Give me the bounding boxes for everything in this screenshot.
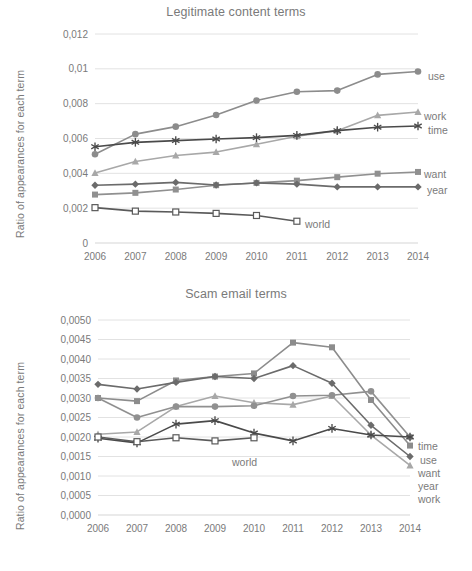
data-point-year: [172, 179, 179, 186]
x-tick-label: 2010: [243, 523, 266, 534]
series-label-work: work: [417, 493, 441, 505]
x-tick-label: 2006: [84, 251, 107, 262]
data-point-want: [134, 414, 141, 421]
x-tick-label: 2012: [321, 523, 344, 534]
data-point-want: [173, 187, 179, 193]
data-point-use: [172, 123, 179, 130]
y-tick-label: 0,0015: [60, 451, 91, 462]
data-point-want: [290, 393, 297, 400]
series-label-world: world: [304, 218, 330, 230]
series-label-work: work: [423, 110, 447, 122]
data-point-use: [407, 443, 413, 449]
data-point-world: [132, 208, 138, 214]
data-point-world: [173, 209, 179, 215]
y-tick-label: 0,0010: [60, 471, 91, 482]
y-tick-label: 0,002: [63, 203, 88, 214]
data-point-year: [91, 181, 98, 188]
data-point-world: [212, 438, 218, 444]
y-tick-label: 0,0005: [60, 490, 91, 501]
series-label-use: use: [428, 70, 445, 82]
x-tick-label: 2008: [165, 251, 188, 262]
plot-area-bottom: 0,00000,00050,00100,00150,00200,00250,00…: [0, 285, 472, 571]
data-point-want: [329, 392, 336, 399]
data-point-world: [251, 435, 257, 441]
y-tick-label: 0,008: [63, 98, 88, 109]
data-point-world: [254, 212, 260, 218]
series-label-want: want: [423, 168, 446, 180]
data-point-world: [294, 218, 300, 224]
data-point-year: [334, 183, 341, 190]
data-point-want: [368, 388, 375, 395]
series-label-time: time: [418, 440, 438, 452]
data-point-world: [173, 435, 179, 441]
data-point-year: [132, 180, 139, 187]
data-point-year: [374, 183, 381, 190]
x-tick-label: 2013: [360, 523, 383, 534]
data-point-world: [213, 210, 219, 216]
series-label-want: want: [417, 467, 440, 479]
data-point-use: [134, 398, 140, 404]
data-point-use: [213, 112, 220, 119]
x-tick-label: 2009: [205, 251, 228, 262]
data-point-world: [92, 205, 98, 211]
plot-area-top: 00,0020,0040,0060,0080,010,0122006200720…: [0, 0, 472, 285]
x-tick-label: 2009: [204, 523, 227, 534]
y-tick-label: 0,0025: [60, 412, 91, 423]
data-point-use: [329, 344, 335, 350]
data-point-work: [211, 392, 218, 399]
x-tick-label: 2012: [326, 251, 349, 262]
data-point-want: [334, 174, 340, 180]
data-point-want: [251, 403, 258, 410]
y-tick-label: 0,006: [63, 133, 88, 144]
chart-panel-scam-email-terms: Scam email terms Ratio of appearances fo…: [0, 285, 472, 571]
series-label-time: time: [428, 124, 448, 136]
series-label-year: year: [427, 184, 448, 196]
data-point-year: [133, 385, 140, 392]
data-point-year: [414, 183, 421, 190]
data-point-use: [334, 87, 341, 94]
y-tick-label: 0,0035: [60, 373, 91, 384]
data-point-want: [132, 190, 138, 196]
y-tick-label: 0,0050: [60, 315, 91, 326]
y-tick-label: 0,0020: [60, 432, 91, 443]
data-point-use: [374, 71, 381, 78]
x-tick-label: 2011: [282, 523, 304, 534]
x-tick-label: 2008: [165, 523, 188, 534]
series-label-use: use: [420, 454, 437, 466]
y-tick-label: 0,0000: [60, 510, 91, 521]
x-tick-label: 2007: [126, 523, 149, 534]
data-point-want: [415, 169, 421, 175]
data-point-want: [212, 403, 219, 410]
y-tick-label: 0,012: [63, 29, 88, 40]
data-point-want: [92, 192, 98, 198]
x-tick-label: 2011: [286, 251, 308, 262]
y-tick-label: 0,0040: [60, 354, 91, 365]
x-tick-label: 2010: [245, 251, 268, 262]
y-tick-label: 0,01: [69, 63, 89, 74]
y-tick-label: 0,004: [63, 168, 88, 179]
x-tick-label: 2007: [124, 251, 147, 262]
data-point-year: [94, 381, 101, 388]
data-point-use: [290, 340, 296, 346]
data-point-year: [289, 362, 296, 369]
data-point-use: [368, 397, 374, 403]
data-point-world: [134, 439, 140, 445]
data-point-use: [132, 131, 139, 138]
series-line-world: [95, 208, 297, 222]
series-label-year: year: [418, 480, 439, 492]
data-point-world: [95, 434, 101, 440]
data-point-use: [92, 151, 99, 158]
x-tick-label: 2013: [367, 251, 390, 262]
chart-panel-legitimate-content-terms: Legitimate content terms Ratio of appear…: [0, 0, 472, 285]
data-point-want: [173, 403, 180, 410]
x-tick-label: 2014: [399, 523, 422, 534]
x-tick-label: 2014: [407, 251, 430, 262]
y-tick-label: 0,0045: [60, 334, 91, 345]
data-point-want: [375, 171, 381, 177]
y-tick-label: 0,0030: [60, 393, 91, 404]
series-label-world: world: [231, 456, 257, 468]
data-point-use: [253, 97, 260, 104]
data-point-want: [95, 395, 102, 402]
x-tick-label: 2006: [87, 523, 110, 534]
data-point-use: [415, 68, 422, 75]
